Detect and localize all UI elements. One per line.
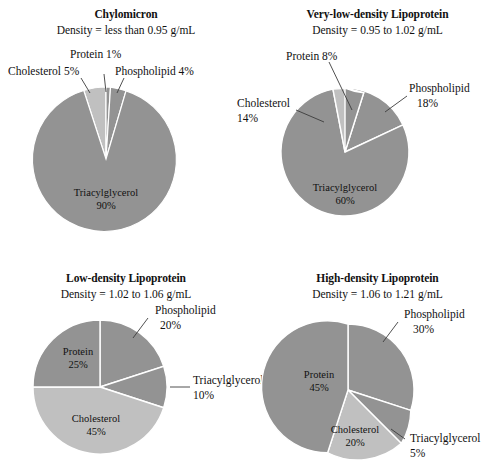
callout-phospholipid-name: Phospholipid <box>404 308 465 321</box>
pie-chart-chylomicron: Triacylglycerol 90% Cholesterol 5% Prote… <box>0 0 252 250</box>
pie-label-protein-value: 45% <box>309 382 329 393</box>
pie-label-triacylglycerol-value: 90% <box>96 200 116 211</box>
callout-phospholipid-name: Phospholipid <box>409 82 470 95</box>
callout-triacylglycerol-value: 5% <box>410 447 426 459</box>
pie-chart-vldl: Triacylglycerol 60% Protein 8% Phospholi… <box>252 0 503 250</box>
pie-label-triacylglycerol-value: 60% <box>335 195 355 206</box>
callout-cholesterol-value: 14% <box>237 112 259 124</box>
callout-protein: Protein 8% <box>286 50 338 62</box>
pie-label-triacylglycerol-name: Triacylglycerol <box>313 182 377 193</box>
callout-triacylglycerol-name: Triacylglycerol <box>410 432 480 445</box>
pie-label-cholesterol-name: Cholesterol <box>72 413 120 424</box>
chart-panel-vldl: Very-low-density Lipoprotein Density = 0… <box>252 0 503 250</box>
pie-label-cholesterol-value: 20% <box>345 437 365 448</box>
callout-phospholipid-value: 18% <box>417 97 439 109</box>
callout-phospholipid-value: 20% <box>160 319 182 331</box>
chart-panel-chylomicron: Chylomicron Density = less than 0.95 g/m… <box>0 0 252 250</box>
callout-protein: Protein 1% <box>70 48 122 60</box>
callout-phospholipid-value: 30% <box>413 323 435 335</box>
pie-label-cholesterol-value: 45% <box>86 426 106 437</box>
pie-label-triacylglycerol-name: Triacylglycerol <box>74 187 138 198</box>
pie-chart-ldl: Protein 25% Cholesterol 45% Phospholipid… <box>0 250 252 476</box>
callout-phospholipid-name: Phospholipid <box>155 304 216 317</box>
pie-label-protein-name: Protein <box>63 346 94 357</box>
pie-label-protein-value: 25% <box>68 359 88 370</box>
callout-cholesterol-name: Cholesterol <box>237 97 290 109</box>
callout-phospholipid: Phospholipid 4% <box>115 65 194 78</box>
chart-panel-hdl: High-density Lipoprotein Density = 1.06 … <box>252 250 503 476</box>
chart-panel-ldl: Low-density Lipoprotein Density = 1.02 t… <box>0 250 252 476</box>
callout-triacylglycerol-value: 10% <box>193 389 215 401</box>
pie-label-protein-name: Protein <box>304 369 335 380</box>
pie-chart-hdl: Protein 45% Cholesterol 20% Phospholipid… <box>252 250 503 476</box>
callout-cholesterol: Cholesterol 5% <box>8 65 80 77</box>
pie-label-cholesterol-name: Cholesterol <box>331 424 379 435</box>
